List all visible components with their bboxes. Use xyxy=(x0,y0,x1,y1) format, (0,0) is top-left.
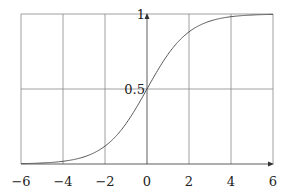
y-tick-labels: 0.51 xyxy=(124,7,145,97)
y-tick-label: 1 xyxy=(137,7,145,22)
x-tick-label: 4 xyxy=(227,174,235,189)
x-tick-label: 6 xyxy=(269,174,277,189)
x-tick-label: −4 xyxy=(53,174,72,189)
x-tick-label: 0 xyxy=(143,174,151,189)
x-tick-label: 2 xyxy=(185,174,193,189)
y-tick-label: 0.5 xyxy=(124,82,145,97)
x-tick-label: −6 xyxy=(11,174,30,189)
x-tick-label: −2 xyxy=(95,174,114,189)
x-tick-labels: −6−4−20246 xyxy=(11,174,277,189)
sigmoid-chart: −6−4−20246 0.51 xyxy=(0,0,288,194)
axes xyxy=(21,13,274,167)
